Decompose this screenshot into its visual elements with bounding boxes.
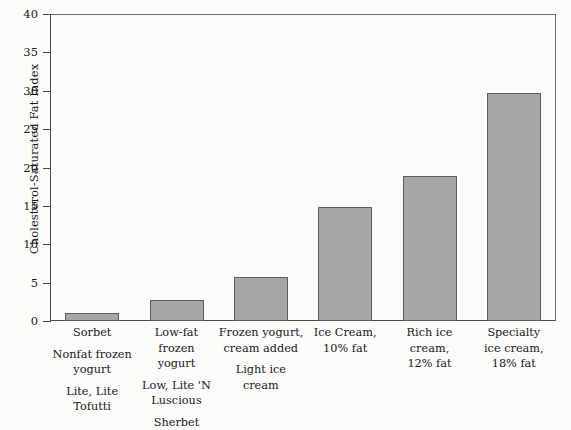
x-axis-label-line: 12% fat (387, 356, 471, 372)
x-axis-label-column: Frozen yogurt,cream addedLight icecream (219, 325, 303, 393)
x-axis-label-line: yogurt (50, 362, 134, 378)
x-axis-label-group: Nonfat frozenyogurt (50, 347, 134, 378)
x-axis-label-line: Nonfat frozen (50, 347, 134, 363)
x-axis-label-line: Sorbet (50, 325, 134, 341)
x-axis-label-line: cream, (387, 341, 471, 357)
x-axis-label-group: Rich icecream,12% fat (387, 325, 471, 372)
x-axis-category-labels: SorbetNonfat frozenyogurtLite, LiteTofut… (50, 325, 556, 430)
x-axis-label-column: Specialtyice cream,18% fat (472, 325, 556, 372)
x-axis-label-column: Rich icecream,12% fat (387, 325, 471, 372)
x-axis-label-group: Frozen yogurt,cream added (219, 325, 303, 356)
x-axis-label-line: Luscious (134, 393, 218, 409)
bar[interactable] (318, 207, 372, 321)
x-axis-label-group: Specialtyice cream,18% fat (472, 325, 556, 372)
y-tick-mark (43, 168, 51, 169)
x-axis-label-group: Lite, LiteTofutti (50, 384, 134, 415)
bar-chart: Cholesterol-Saturated Fat Index 05101520… (0, 0, 571, 430)
y-tick-mark (43, 244, 51, 245)
bar[interactable] (487, 93, 541, 321)
bar[interactable] (150, 300, 204, 321)
x-axis-label-line: Tofutti (50, 399, 134, 415)
y-tick-label: 10 (23, 237, 38, 251)
bar[interactable] (234, 277, 288, 321)
y-tick-mark (43, 283, 51, 284)
y-tick-label: 35 (23, 45, 38, 59)
x-axis-label-group: Sherbet (134, 415, 218, 430)
x-axis-label-line: yogurt (134, 356, 218, 372)
x-axis-label-column: SorbetNonfat frozenyogurtLite, LiteTofut… (50, 325, 134, 415)
x-axis-label-group: Light icecream (219, 362, 303, 393)
x-axis-label-line: Low-fat (134, 325, 218, 341)
y-tick-label: 20 (23, 161, 38, 175)
x-axis-label-line: Lite, Lite (50, 384, 134, 400)
x-axis-label-column: Ice Cream,10% fat (303, 325, 387, 356)
x-axis-label-line: cream (219, 378, 303, 394)
y-tick-label: 30 (23, 84, 38, 98)
x-axis-label-line: ice cream, (472, 341, 556, 357)
x-axis-label-line: 10% fat (303, 341, 387, 357)
bar[interactable] (65, 313, 119, 321)
x-axis-label-group: Ice Cream,10% fat (303, 325, 387, 356)
y-tick-mark (43, 129, 51, 130)
bar[interactable] (403, 176, 457, 321)
y-tick-mark (43, 206, 51, 207)
x-axis-label-line: Low, Lite 'N (134, 378, 218, 394)
y-tick-mark (43, 14, 51, 15)
y-tick-label: 40 (23, 7, 38, 21)
y-tick-label: 15 (23, 199, 38, 213)
x-axis-label-line: Specialty (472, 325, 556, 341)
x-axis-label-line: frozen (134, 341, 218, 357)
y-tick-label: 25 (23, 122, 38, 136)
y-tick-mark (43, 91, 51, 92)
plot-area-frame (50, 14, 556, 321)
x-axis-label-group: Low, Lite 'NLuscious (134, 378, 218, 409)
y-tick-mark (43, 321, 51, 322)
x-axis-label-line: Rich ice (387, 325, 471, 341)
x-axis-label-line: Frozen yogurt, (219, 325, 303, 341)
x-axis-label-line: Sherbet (134, 415, 218, 430)
x-axis-label-column: Low-fatfrozenyogurtLow, Lite 'NLusciousS… (134, 325, 218, 430)
x-axis-label-line: Light ice (219, 362, 303, 378)
y-tick-label: 0 (31, 314, 38, 328)
x-axis-label-line: 18% fat (472, 356, 556, 372)
y-tick-mark (43, 52, 51, 53)
x-axis-label-group: Sorbet (50, 325, 134, 341)
x-axis-label-group: Low-fatfrozenyogurt (134, 325, 218, 372)
y-tick-label: 5 (31, 276, 38, 290)
x-axis-label-line: Ice Cream, (303, 325, 387, 341)
x-axis-label-line: cream added (219, 341, 303, 357)
